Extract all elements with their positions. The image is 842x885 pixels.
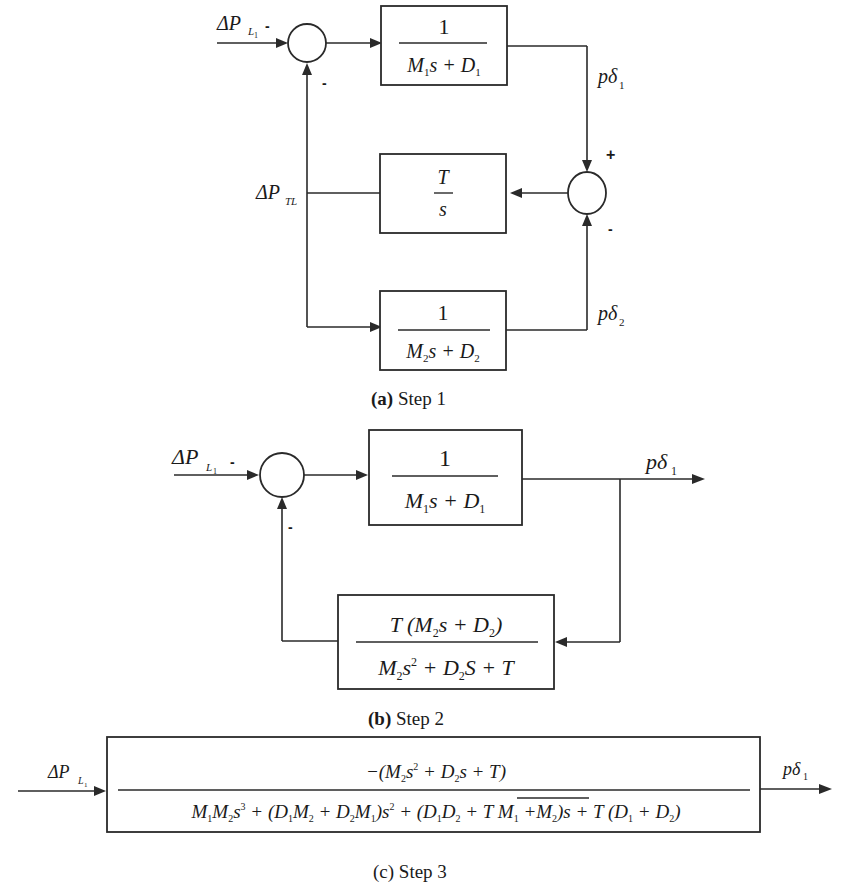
arrowhead-icon <box>819 784 832 794</box>
caption-step1: (a) Step 1 <box>371 388 446 410</box>
arrowhead-icon <box>510 188 522 198</box>
caption-step2: (b) Step 2 <box>368 708 444 730</box>
summer2-top-sign: + <box>606 146 615 163</box>
output-sub-step2: 1 <box>671 464 677 478</box>
step-1-diagram: ΔP L 1 - - 1 M1s + D1 pδ 1 + - T s <box>216 6 625 410</box>
input-label-step1: ΔP <box>216 12 241 34</box>
block-bottom-den: M2s + D2 <box>405 340 479 364</box>
output-bottom-label-step1: pδ <box>596 302 618 325</box>
input-sub-index: 1 <box>84 781 88 789</box>
closed-loop-den: M1M2s3 + (D1M2 + D2M1)s2 + (D1D2 + T M1 … <box>191 801 681 824</box>
step-2-diagram: ΔP L 1 - - 1 M1s + D1 pδ 1 T (M2s + D2) … <box>171 430 705 730</box>
input-sub-step3: L <box>77 775 84 786</box>
step-3-diagram: ΔP L 1 −(M2s2 + D2s + T) M1M2s3 + (D1M2 … <box>18 737 832 883</box>
summer-input-sign-step2: - <box>230 454 235 470</box>
tie-line-sub: TL <box>285 195 297 207</box>
feedback-block-num: T (M2s + D2) <box>390 612 503 640</box>
input-sub-step2: L <box>205 461 212 473</box>
forward-block-num: 1 <box>439 445 451 471</box>
input-sub-index: 1 <box>254 31 258 40</box>
block-bottom-num: 1 <box>438 300 449 325</box>
input-label-step2: ΔP <box>171 444 198 469</box>
output-sub-step3: 1 <box>803 771 808 782</box>
block-top-num: 1 <box>439 14 450 39</box>
arrowhead-icon <box>582 160 592 172</box>
arrowhead-icon <box>302 63 312 75</box>
arrowhead-icon <box>692 474 705 484</box>
summing-junction-step2 <box>260 453 304 497</box>
caption-step3: (c) Step 3 <box>373 861 447 883</box>
output-top-sub-step1: 1 <box>619 79 625 91</box>
input-label-step3: ΔP <box>47 762 70 782</box>
block-mid-den: s <box>439 198 447 220</box>
summer-feedback-sign-step2: - <box>288 519 293 535</box>
summer1-feedback-sign: - <box>322 75 327 91</box>
arrowhead-icon <box>555 637 567 647</box>
output-top-label-step1: pδ <box>596 65 618 88</box>
forward-block-den: M1s + D1 <box>404 488 486 516</box>
output-bottom-sub-step1: 2 <box>619 316 625 328</box>
arrowhead-icon <box>356 470 368 480</box>
summing-junction-1 <box>288 24 326 62</box>
block-diagram-figure: ΔP L 1 - - 1 M1s + D1 pδ 1 + - T s <box>0 0 842 885</box>
summing-junction-2 <box>568 172 606 214</box>
arrowhead-icon <box>276 38 288 48</box>
output-label-step2: pδ <box>644 449 668 474</box>
summer2-bottom-sign: - <box>608 221 613 237</box>
summer1-input-sign: - <box>265 18 270 34</box>
arrowhead-icon <box>277 497 287 509</box>
output-label-step3: pδ <box>781 759 801 779</box>
block-mid-num: T <box>437 166 450 188</box>
arrowhead-icon <box>247 470 259 480</box>
closed-loop-num: −(M2s2 + D2s + T) <box>366 761 506 784</box>
tie-line-label: ΔP <box>255 181 280 203</box>
arrowhead-icon <box>94 786 106 796</box>
arrowhead-icon <box>582 214 592 226</box>
block-top-den: M1s + D1 <box>406 54 480 78</box>
